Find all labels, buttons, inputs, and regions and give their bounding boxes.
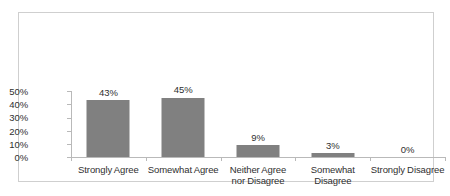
x-axis-tick-mark-4 — [370, 157, 371, 161]
bar-group-somewhat-disagree[interactable]: 3% — [295, 91, 370, 157]
x-axis-tick-mark-5 — [445, 157, 446, 161]
x-axis-tick-mark-2 — [221, 157, 222, 161]
y-axis-tick-label-50: 50% — [0, 87, 28, 97]
bar-value-label-somewhat-agree: 45% — [174, 85, 193, 95]
x-axis-tick-mark-0 — [71, 157, 72, 161]
bar-value-label-somewhat-disagree: 3% — [326, 141, 340, 151]
x-axis-label-strongly-agree: Strongly Agree — [71, 164, 146, 175]
bar-value-label-neither-agree-nor-disagree: 9% — [251, 133, 265, 143]
x-axis-tick-mark-3 — [295, 157, 296, 161]
bar-group-strongly-disagree[interactable]: 0% — [370, 91, 445, 157]
x-axis-label-strongly-disagree: Strongly Disagree — [370, 164, 445, 175]
chart-frame: 50% 40% 30% 20% 10% 0% 43% 45% 9% 3% 0% — [18, 12, 434, 182]
bar-strongly-agree[interactable] — [87, 100, 130, 157]
y-axis-tick-label-40: 40% — [0, 100, 28, 110]
bar-neither-agree-nor-disagree[interactable] — [236, 145, 279, 157]
x-axis-line — [71, 157, 445, 158]
plot-area: 43% 45% 9% 3% 0% — [71, 91, 445, 157]
bar-somewhat-disagree[interactable] — [311, 153, 354, 157]
bar-value-label-strongly-agree: 43% — [99, 88, 118, 98]
y-axis-tick-label-10: 10% — [0, 140, 28, 150]
x-axis-label-somewhat-disagree: Somewhat Disagree — [304, 164, 361, 186]
y-axis-tick-label-20: 20% — [0, 127, 28, 137]
bar-group-strongly-agree[interactable]: 43% — [71, 91, 146, 157]
bar-group-somewhat-agree[interactable]: 45% — [146, 91, 221, 157]
x-axis-label-somewhat-agree: Somewhat Agree — [146, 164, 221, 175]
bar-somewhat-agree[interactable] — [162, 98, 205, 157]
y-axis-tick-label-30: 30% — [0, 113, 28, 123]
x-axis-label-neither-agree-nor-disagree: Neither Agree nor Disagree — [223, 164, 294, 186]
x-axis-tick-mark-1 — [146, 157, 147, 161]
bar-value-label-strongly-disagree: 0% — [401, 145, 415, 155]
bar-group-neither-agree-nor-disagree[interactable]: 9% — [221, 91, 296, 157]
y-axis-tick-label-0: 0% — [0, 153, 28, 163]
